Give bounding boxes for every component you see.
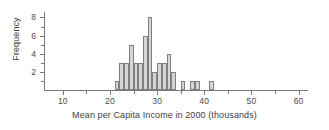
y-axis-tick xyxy=(40,72,44,73)
y-axis-tick-label: 4 xyxy=(24,50,36,58)
y-axis-label: Frequency xyxy=(11,0,21,79)
x-axis-minor-tick xyxy=(275,91,276,94)
x-axis-minor-tick xyxy=(134,91,135,94)
x-axis-tick-label: 40 xyxy=(192,96,216,106)
y-axis-minor-tick xyxy=(41,45,44,46)
x-axis-tick xyxy=(251,91,252,95)
x-axis-minor-tick xyxy=(228,91,229,94)
x-axis-minor-tick xyxy=(86,91,87,94)
x-axis-line xyxy=(44,90,308,91)
x-axis-tick xyxy=(63,91,64,95)
x-axis-label: Mean per Capita Income in 2000 (thousand… xyxy=(0,110,329,120)
bars-layer xyxy=(44,12,308,90)
histogram-bar xyxy=(209,81,214,90)
x-axis-tick-label: 60 xyxy=(287,96,311,106)
histogram-bar xyxy=(171,72,176,90)
y-axis-minor-tick xyxy=(41,27,44,28)
x-axis-tick xyxy=(299,91,300,95)
plot-area xyxy=(44,12,308,90)
histogram-figure: 1020304050602468 Frequency Mean per Capi… xyxy=(0,0,329,130)
x-axis-tick-label: 30 xyxy=(145,96,169,106)
y-axis-tick xyxy=(40,17,44,18)
y-axis-tick-label: 2 xyxy=(24,68,36,76)
x-axis-tick xyxy=(204,91,205,95)
x-axis-tick-label: 10 xyxy=(51,96,75,106)
histogram-bar xyxy=(195,81,200,90)
x-axis-tick-label: 50 xyxy=(239,96,263,106)
y-axis-tick-label: 6 xyxy=(24,32,36,40)
y-axis-tick xyxy=(40,54,44,55)
y-axis-tick-label: 8 xyxy=(24,13,36,21)
x-axis-tick xyxy=(157,91,158,95)
x-axis-tick xyxy=(110,91,111,95)
y-axis-minor-tick xyxy=(41,63,44,64)
x-axis-tick-label: 20 xyxy=(98,96,122,106)
y-axis-minor-tick xyxy=(41,81,44,82)
x-axis-minor-tick xyxy=(181,91,182,94)
y-axis-tick xyxy=(40,36,44,37)
histogram-bar xyxy=(181,81,186,90)
